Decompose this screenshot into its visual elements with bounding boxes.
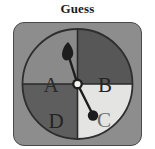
spinner-wheel[interactable]: A B D C xyxy=(13,22,142,146)
segment-label-d: D xyxy=(48,109,63,133)
page-title: Guess xyxy=(0,1,155,17)
needle-counterweight xyxy=(88,110,98,120)
needle-hub[interactable] xyxy=(74,81,80,87)
guess-spinner-widget: Guess A B D C xyxy=(0,0,155,149)
segment-label-a: A xyxy=(43,73,59,97)
segment-label-c: C xyxy=(97,108,111,132)
segment-label-b: B xyxy=(98,73,112,97)
